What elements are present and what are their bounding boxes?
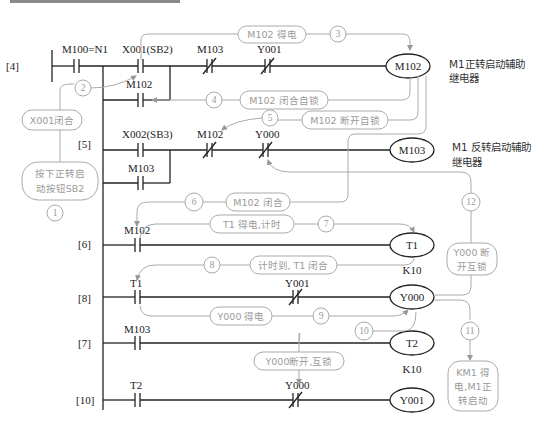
- svg-text:计时到, T1 闭合: 计时到, T1 闭合: [258, 260, 329, 271]
- svg-text:9: 9: [319, 311, 324, 321]
- note-m102-close: M102 闭合: [226, 193, 290, 211]
- contact-label: M103: [128, 162, 155, 174]
- contact-label: X002(SB3): [122, 128, 173, 141]
- note-m102-energized: M102 得电: [238, 26, 306, 43]
- step-11: 11: [461, 322, 479, 340]
- svg-text:1: 1: [53, 208, 58, 218]
- coil-y001[interactable]: Y001: [390, 388, 434, 412]
- svg-text:M102 闭合自锁: M102 闭合自锁: [249, 95, 318, 106]
- contact-label: Y001: [257, 43, 281, 55]
- contact-label: Y000: [285, 379, 310, 391]
- contact-label: Y000: [255, 128, 280, 140]
- contact-m102-no[interactable]: [135, 238, 140, 252]
- timer-setting: K10: [403, 363, 422, 375]
- svg-text:M102 断开自锁: M102 断开自锁: [310, 115, 379, 126]
- note-y000-break-interlock: Y000 断 开互锁: [447, 243, 497, 275]
- contact-m102-branch-no[interactable]: [138, 93, 143, 107]
- svg-text:6: 6: [192, 197, 197, 207]
- rung-label: [10]: [76, 394, 94, 406]
- contact-label: T1: [130, 277, 142, 289]
- svg-text:Y000 得电: Y000 得电: [217, 311, 265, 322]
- contact-t2-no[interactable]: [135, 393, 140, 407]
- note-y000-interlock-open: Y000断开,互锁: [254, 352, 344, 370]
- coil-t2[interactable]: T2: [390, 331, 434, 355]
- coil-description: M1 反转启动辅助: [452, 141, 531, 153]
- svg-text:T1: T1: [406, 239, 418, 251]
- rung-label: [5]: [78, 138, 91, 150]
- svg-text:12: 12: [466, 197, 476, 207]
- svg-text:开互锁: 开互锁: [457, 261, 487, 272]
- coil-m103[interactable]: M103: [390, 138, 434, 162]
- svg-text:Y001: Y001: [400, 394, 424, 406]
- svg-text:10: 10: [359, 326, 369, 336]
- step-8: 8: [204, 257, 220, 273]
- contact-m100-no[interactable]: [74, 59, 79, 73]
- rung-5: [5] X002(SB3) M102 Y000 M103 M1 反转启动辅助 继…: [78, 128, 531, 190]
- rung-8: [8] T1 Y001 Y000: [78, 277, 434, 309]
- step-5: 5: [262, 110, 278, 126]
- contact-x002-no[interactable]: [138, 143, 143, 157]
- step-6: 6: [185, 193, 203, 211]
- note-m102-self-lock: M102 闭合自锁: [240, 91, 328, 109]
- rung-label: [6]: [78, 238, 91, 250]
- svg-text:8: 8: [210, 260, 215, 270]
- svg-text:电,M1正: 电,M1正: [454, 381, 491, 392]
- rung-label: [7]: [78, 337, 91, 349]
- svg-text:11: 11: [465, 326, 474, 336]
- note-x001-close: X001闭合: [22, 110, 82, 130]
- svg-text:4: 4: [212, 95, 217, 105]
- annotation-flow: X001闭合 按下正转启 动按钮SB2 1 2 M102 得电 3: [22, 26, 498, 411]
- coil-description: 继电器: [452, 156, 483, 168]
- contact-label: X001(SB2): [122, 43, 173, 56]
- rung-10: [10] T2 Y000 Y001: [76, 379, 434, 412]
- step-3: 3: [330, 26, 346, 42]
- step-9: 9: [313, 308, 329, 324]
- contact-label: M102: [197, 128, 223, 140]
- svg-text:5: 5: [268, 113, 273, 123]
- svg-text:M103: M103: [399, 144, 426, 156]
- step-10: 10: [355, 322, 373, 340]
- svg-text:T1 得电,计时: T1 得电,计时: [222, 219, 281, 230]
- note-km1-start: KM1 得 电,M1正 转启动: [448, 361, 498, 411]
- note-t1-done: 计时到, T1 闭合: [250, 256, 337, 274]
- contact-label: Y001: [285, 277, 309, 289]
- contact-label: T2: [130, 379, 142, 391]
- svg-text:7: 7: [324, 219, 329, 229]
- note-press-sb2: 按下正转启 动按钮SB2: [22, 162, 98, 200]
- svg-text:X001闭合: X001闭合: [30, 115, 75, 126]
- svg-text:按下正转启: 按下正转启: [35, 168, 85, 179]
- contact-label: M103: [197, 43, 224, 55]
- contact-m103-no[interactable]: [135, 336, 140, 350]
- contact-label: M102: [126, 78, 152, 90]
- step-4: 4: [206, 92, 222, 108]
- note-y000-energized: Y000 得电: [210, 307, 272, 325]
- contact-x001-no[interactable]: [138, 59, 143, 73]
- coil-description: 继电器: [449, 72, 480, 84]
- step-12: 12: [462, 193, 480, 211]
- svg-text:Y000: Y000: [400, 291, 425, 303]
- svg-text:M102: M102: [395, 60, 421, 72]
- note-t1-timing: T1 得电,计时: [210, 215, 294, 233]
- svg-text:动按钮SB2: 动按钮SB2: [36, 183, 85, 194]
- svg-text:T2: T2: [406, 337, 418, 349]
- rung-label: [8]: [78, 292, 91, 304]
- svg-text:2: 2: [81, 83, 86, 93]
- svg-text:KM1 得: KM1 得: [456, 367, 490, 378]
- step-1: 1: [47, 205, 63, 221]
- contact-t1-no[interactable]: [135, 290, 140, 304]
- contact-label: M100=N1: [62, 43, 108, 55]
- step-2: 2: [75, 80, 91, 96]
- coil-t1[interactable]: T1: [390, 233, 434, 257]
- contact-m103-branch-no[interactable]: [138, 176, 143, 190]
- rung-label: [4]: [6, 60, 19, 72]
- timer-setting: K10: [403, 264, 422, 276]
- contact-label: M103: [124, 323, 151, 335]
- coil-y000[interactable]: Y000: [390, 285, 434, 309]
- svg-text:M102 闭合: M102 闭合: [233, 197, 282, 208]
- note-m102-break-lock: M102 断开自锁: [302, 111, 388, 129]
- svg-text:Y000断开,互锁: Y000断开,互锁: [265, 356, 333, 367]
- svg-text:转启动: 转启动: [458, 395, 488, 406]
- svg-text:3: 3: [336, 29, 341, 39]
- coil-m102[interactable]: M102: [386, 54, 430, 78]
- coil-description: M1正转启动辅助: [449, 58, 525, 70]
